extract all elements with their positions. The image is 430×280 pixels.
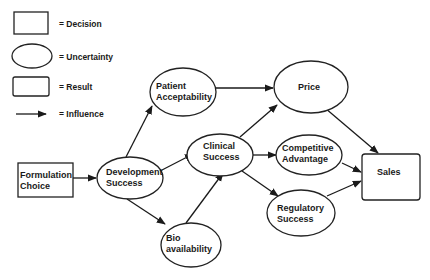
legend-uncertainty-label: = Uncertainty	[59, 52, 113, 62]
node-price: Price	[274, 61, 348, 113]
node-label-line-1: Bio	[166, 233, 181, 243]
node-formulation-choice: Formulation Choice	[18, 163, 73, 197]
node-label-line-2: availability	[166, 244, 212, 254]
edge-clinical-to-regulatory	[242, 171, 278, 196]
legend-influence-label: = Influence	[59, 109, 104, 119]
edge-clinical-to-price	[240, 105, 277, 137]
node-label-line-2: Success	[277, 214, 314, 224]
legend-decision-label: = Decision	[59, 19, 102, 29]
decision-shape-icon	[14, 12, 48, 34]
node-label-line-2: Choice	[20, 181, 50, 191]
node-label-line-1: Clinical	[203, 141, 235, 151]
node-label-line-2: Acceptability	[156, 92, 212, 102]
decision-node-shape	[18, 163, 73, 197]
uncertainty-node-shape	[267, 190, 335, 236]
node-clinical-success: Clinical Success	[187, 134, 253, 176]
legend-result: = Result	[13, 77, 92, 96]
legend-decision: = Decision	[14, 12, 102, 34]
node-regulatory-success: Regulatory Success	[267, 190, 335, 236]
node-label-line-2: Success	[203, 152, 240, 162]
result-node-shape	[362, 154, 420, 200]
node-label-line-1: Sales	[377, 167, 401, 177]
node-label-line-1: Patient	[156, 81, 186, 91]
edge-development-to-bio	[127, 199, 165, 224]
node-competitive-advantage: Competitive Advantage	[276, 135, 342, 175]
influence-diagram: = Decision = Uncertainty = Result = Infl…	[0, 0, 430, 280]
edge-development-to-patient	[126, 106, 152, 157]
node-label-line-1: Price	[298, 82, 320, 92]
legend: = Decision = Uncertainty = Result = Infl…	[12, 12, 113, 119]
node-patient-acceptability: Patient Acceptability	[150, 68, 216, 116]
node-sales: Sales	[362, 154, 420, 200]
node-label-line-1: Regulatory	[277, 203, 324, 213]
result-shape-icon	[13, 77, 49, 96]
edge-regulatory-to-sales	[327, 181, 361, 196]
node-bio-availability: Bio availability	[161, 223, 221, 267]
node-development-success: Development Success	[97, 157, 163, 199]
node-label-line-1: Development	[106, 167, 163, 177]
node-label-line-1: Competitive	[282, 143, 334, 153]
node-label-line-1: Formulation	[20, 170, 72, 180]
legend-influence: = Influence	[16, 109, 104, 119]
legend-uncertainty: = Uncertainty	[12, 44, 113, 68]
edge-competitive-to-sales	[342, 163, 361, 172]
legend-result-label: = Result	[59, 82, 92, 92]
node-label-line-2: Success	[106, 178, 143, 188]
edge-bio-to-clinical	[186, 173, 223, 223]
uncertainty-shape-icon	[12, 44, 52, 68]
node-label-line-2: Advantage	[282, 154, 328, 164]
